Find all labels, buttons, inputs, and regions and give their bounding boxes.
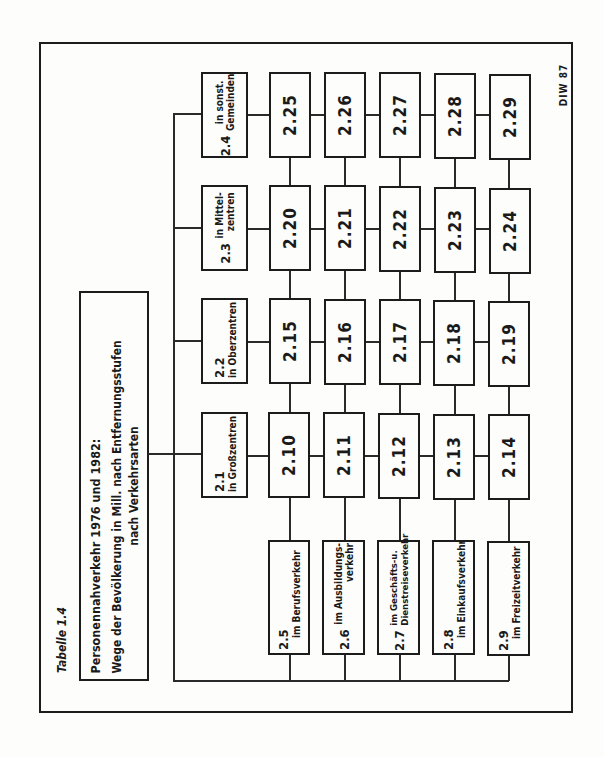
table-label: Tabelle 1.4 [54,600,70,680]
title-text: Personennahverkehr 1976 und 1982: Wege d… [88,299,141,674]
purpose-2-7-text: im Geschäfts-u.Dienstreiseverkehr [388,533,410,625]
cell-label: 2.22 [390,208,410,250]
cell-2-16: 2.16 [324,299,366,385]
cell-label: 2.12 [389,435,409,477]
cell-label: 2.20 [280,207,300,249]
location-2-2-text: in Oberzentren [227,304,238,378]
location-box-2-2: 2.2 in Oberzentren [201,298,248,384]
spine-line [173,113,175,682]
cell-label: 2.19 [499,323,519,365]
location-2-4-num: 2.4 [217,136,232,157]
cell-label: 2.18 [444,322,464,364]
purpose-box-2-8: 2.8 im Einkaufsverkehr [432,540,475,655]
cell-2-21: 2.21 [324,185,366,271]
cell-label: 2.14 [499,436,519,478]
cell-label: 2.27 [390,94,410,136]
purpose-2-8-num: 2.8 [441,546,456,650]
cell-2-10: 2.10 [268,412,310,498]
title-box: Personennahverkehr 1976 und 1982: Wege d… [79,291,149,681]
purpose-box-2-5: 2.5 im Berufsverkehr [268,540,310,655]
location-box-2-1: 2.1 in Großzentren [201,412,248,498]
location-2-1-num: 2.1 [212,418,227,492]
cell-2-29: 2.29 [489,74,531,160]
source-tag-text: DIW 87 [558,64,569,106]
location-box-2-4: 2.4 in sonst.Gemeinden [201,72,248,158]
purpose-2-9-num: 2.9 [496,547,511,651]
cell-label: 2.10 [279,434,299,476]
cell-2-22: 2.22 [379,186,421,272]
purpose-2-6-num: 2.6 [336,629,351,650]
cell-2-24: 2.24 [489,188,531,274]
location-2-3-content: 2.3 in Mittel-zentren [214,192,236,263]
purpose-2-5-text: im Berufsverkehr [291,546,302,650]
purpose-2-9-text: im Freizeitverkehr [511,547,522,651]
cell-label: 2.13 [444,436,464,478]
cell-label: 2.16 [335,321,355,363]
cell-label: 2.21 [335,207,355,249]
title-line-3: nach Verkehrsarten [127,299,141,674]
purpose-2-5-num: 2.5 [276,546,291,650]
connector-2-3 [173,227,201,229]
title-line-1: Personennahverkehr 1976 und 1982: [88,299,103,674]
location-2-2-content: 2.2 in Oberzentren [212,304,238,378]
cell-label: 2.17 [390,321,410,363]
purpose-2-6-text: im Ausbildungs-verkehr [333,543,355,625]
cell-2-26: 2.26 [324,72,366,158]
connector-2-2 [173,340,201,342]
cell-2-25: 2.25 [269,72,311,158]
cell-label: 2.28 [445,95,465,137]
purpose-box-2-6: 2.6 im Ausbildungs-verkehr [322,540,365,655]
source-tag: DIW 87 [556,55,570,115]
title-connector [148,453,201,455]
purpose-2-6-content: 2.6 im Ausbildungs-verkehr [333,546,355,650]
location-2-2-num: 2.2 [212,304,227,378]
cell-2-11: 2.11 [323,412,365,498]
purpose-2-8-text: im Einkaufsverkehr [456,546,467,650]
location-2-3-text: in Mittel-zentren [214,192,236,238]
cell-2-23: 2.23 [434,187,476,273]
purpose-box-2-7: 2.7 im Geschäfts-u.Dienstreiseverkehr [377,540,420,655]
purpose-2-7-num: 2.7 [391,630,406,651]
cell-2-28: 2.28 [434,73,476,159]
location-box-2-3: 2.3 in Mittel-zentren [201,185,248,271]
title-line-2: Wege der Bevölkerung in Mill. nach Entfe… [110,299,124,674]
cell-2-13: 2.13 [433,414,475,500]
cell-2-17: 2.17 [379,299,421,385]
cell-label: 2.24 [500,210,520,252]
cell-2-18: 2.18 [433,300,475,386]
cell-label: 2.15 [280,320,300,362]
cell-label: 2.25 [280,94,300,136]
location-2-3-num: 2.3 [217,243,232,264]
cell-2-19: 2.19 [488,301,530,387]
cell-2-12: 2.12 [378,413,420,499]
purpose-2-5-content: 2.5 im Berufsverkehr [276,546,302,650]
purpose-box-2-9: 2.9 im Freizeitverkehr [487,541,530,656]
cell-2-27: 2.27 [379,72,421,158]
bottom-bus-line [173,680,509,682]
cell-2-15: 2.15 [269,298,311,384]
cell-label: 2.11 [334,434,354,476]
location-2-1-content: 2.1 in Großzentren [212,418,238,492]
purpose-2-9-content: 2.9 im Freizeitverkehr [496,547,522,651]
purpose-2-7-content: 2.7 im Geschäfts-u.Dienstreiseverkehr [388,545,410,651]
cell-label: 2.23 [445,209,465,251]
location-2-4-content: 2.4 in sonst.Gemeinden [214,74,236,157]
cell-label: 2.26 [335,94,355,136]
connector-2-4 [173,113,201,115]
cell-2-14: 2.14 [488,414,530,500]
purpose-2-8-content: 2.8 im Einkaufsverkehr [441,546,467,650]
table-label-text: Tabelle 1.4 [55,607,69,673]
cell-label: 2.29 [500,96,520,138]
cell-2-20: 2.20 [269,185,311,271]
location-2-4-text: in sonst.Gemeinden [214,74,236,131]
location-2-1-text: in Großzentren [227,418,238,492]
